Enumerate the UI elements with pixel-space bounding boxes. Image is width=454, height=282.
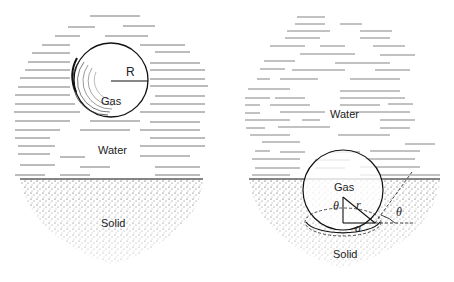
label-radius-r: r	[356, 199, 361, 211]
label-left-water: Water	[98, 145, 127, 156]
label-left-gas: Gas	[101, 96, 121, 107]
label-right-gas: Gas	[334, 182, 354, 193]
label-left-solid: Solid	[101, 218, 125, 229]
label-right-solid: Solid	[333, 249, 357, 260]
label-angle-theta-inner: θ	[333, 200, 339, 212]
label-base-radius-a: a	[355, 222, 361, 234]
diagram-canvas	[0, 0, 454, 282]
label-contact-angle-theta: θ	[396, 206, 402, 218]
label-radius-R: R	[126, 66, 135, 78]
label-right-water: Water	[330, 109, 359, 120]
